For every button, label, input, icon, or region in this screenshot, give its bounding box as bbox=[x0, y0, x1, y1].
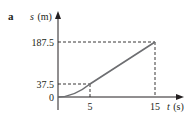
x-tick-15: 15 bbox=[150, 101, 160, 112]
panel-label: a bbox=[8, 10, 14, 22]
y-axis-arrow-icon bbox=[55, 11, 61, 19]
x-tick-5: 5 bbox=[88, 101, 93, 112]
y-tick-0: 0 bbox=[49, 92, 54, 103]
x-axis-arrow-icon bbox=[176, 94, 184, 100]
y-axis-unit: (m) bbox=[37, 11, 51, 23]
x-axis-label: t (s) bbox=[167, 101, 184, 113]
y-axis-label: s (m) bbox=[30, 11, 52, 23]
y-axis-variable: s bbox=[30, 11, 34, 22]
s-t-curve bbox=[58, 42, 155, 97]
displacement-time-graph: a s (m) 187.5 37.5 0 5 15 t (s bbox=[0, 0, 192, 119]
dashed-guides bbox=[58, 42, 155, 97]
x-axis-unit: (s) bbox=[173, 101, 184, 113]
x-axis-variable: t bbox=[167, 101, 170, 112]
y-tick-187-5: 187.5 bbox=[32, 37, 55, 48]
y-tick-37-5: 37.5 bbox=[37, 79, 55, 90]
